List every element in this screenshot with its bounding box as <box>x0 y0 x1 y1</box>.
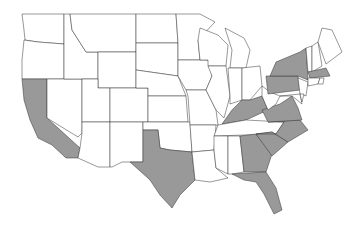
state-wa <box>22 14 64 44</box>
state-me <box>318 28 342 64</box>
states-group <box>22 14 342 214</box>
state-co <box>110 88 148 122</box>
state-az <box>78 122 110 167</box>
state-ct <box>308 78 320 86</box>
state-ms <box>214 136 228 174</box>
state-in <box>228 68 242 104</box>
us-map <box>0 0 360 225</box>
state-oh <box>242 66 262 100</box>
state-ar <box>190 125 216 152</box>
state-mi <box>225 28 250 68</box>
state-fl <box>232 172 282 214</box>
state-nd <box>136 14 178 43</box>
state-ks <box>148 96 188 122</box>
state-nj <box>298 78 308 96</box>
state-ia <box>178 60 212 90</box>
state-wy <box>98 52 136 88</box>
state-nm <box>110 122 143 167</box>
state-or <box>22 40 64 79</box>
state-ny <box>270 48 308 80</box>
state-pa <box>266 76 300 94</box>
